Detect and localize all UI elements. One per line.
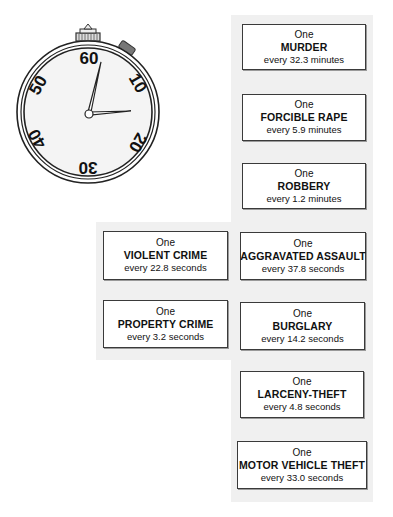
prefix: One — [294, 238, 313, 250]
crime-clock-motor-vehicle-theft: One MOTOR VEHICLE THEFT every 33.0 secon… — [237, 441, 367, 489]
crime-clock-burglary: One BURGLARY every 14.2 seconds — [240, 302, 365, 350]
prefix: One — [293, 308, 312, 320]
dial-number-60: 60 — [80, 49, 99, 68]
crime-type: VIOLENT CRIME — [124, 249, 208, 262]
crime-rate: every 33.0 seconds — [261, 472, 343, 484]
prefix: One — [156, 237, 175, 249]
dial-number-30: 30 — [79, 158, 98, 177]
crime-rate: every 22.8 seconds — [124, 262, 206, 274]
prefix: One — [293, 376, 312, 388]
crime-clock-larceny-theft: One LARCENY-THEFT every 4.8 seconds — [240, 371, 364, 418]
prefix: One — [295, 99, 314, 111]
prefix: One — [295, 29, 314, 41]
crime-type: LARCENY-THEFT — [258, 388, 347, 401]
prefix: One — [295, 168, 314, 180]
crime-clock-violent-crime: One VIOLENT CRIME every 22.8 seconds — [103, 231, 228, 280]
crime-clock-aggravated-assault: One AGGRAVATED ASSAULT every 37.8 second… — [240, 232, 366, 280]
stopwatch-icon: 60 10 20 30 40 50 — [0, 0, 200, 200]
crime-rate: every 4.8 seconds — [263, 401, 340, 413]
crime-type: BURGLARY — [273, 320, 333, 333]
crime-clock-property-crime: One PROPERTY CRIME every 3.2 seconds — [103, 300, 228, 348]
crime-rate: every 14.2 seconds — [261, 333, 343, 345]
crime-clock-forcible-rape: One FORCIBLE RAPE every 5.9 minutes — [242, 94, 366, 141]
crime-type: MURDER — [281, 41, 328, 54]
crime-rate: every 1.2 minutes — [267, 193, 342, 205]
crime-clock-robbery: One ROBBERY every 1.2 minutes — [242, 163, 366, 209]
crime-type: PROPERTY CRIME — [118, 318, 214, 331]
crime-rate: every 37.8 seconds — [262, 263, 344, 275]
crime-clock-murder: One MURDER every 32.3 minutes — [242, 24, 366, 70]
prefix: One — [156, 306, 175, 318]
crime-type: ROBBERY — [278, 180, 331, 193]
crime-type: FORCIBLE RAPE — [260, 111, 347, 124]
crime-type: MOTOR VEHICLE THEFT — [239, 459, 365, 472]
crime-rate: every 32.3 minutes — [264, 54, 344, 66]
crime-type: AGGRAVATED ASSAULT — [240, 250, 365, 263]
crime-rate: every 3.2 seconds — [127, 331, 204, 343]
crime-rate: every 5.9 minutes — [267, 124, 342, 136]
prefix: One — [293, 447, 312, 459]
